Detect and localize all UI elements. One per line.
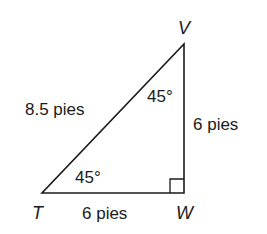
angle-label-t: 45° xyxy=(75,168,101,187)
side-label-vertical: 6 pies xyxy=(193,115,238,134)
right-angle-marker xyxy=(170,179,184,193)
vertex-label-t: T xyxy=(32,203,45,223)
angle-label-v: 45° xyxy=(147,87,173,106)
vertex-label-v: V xyxy=(178,18,192,38)
triangle-svg: V T W 8.5 pies 6 pies 6 pies 45° 45° xyxy=(0,0,267,234)
side-label-hypotenuse: 8.5 pies xyxy=(25,100,85,119)
vertex-label-w: W xyxy=(176,203,195,223)
triangle-diagram: V T W 8.5 pies 6 pies 6 pies 45° 45° xyxy=(0,0,267,234)
side-label-base: 6 pies xyxy=(82,204,127,223)
